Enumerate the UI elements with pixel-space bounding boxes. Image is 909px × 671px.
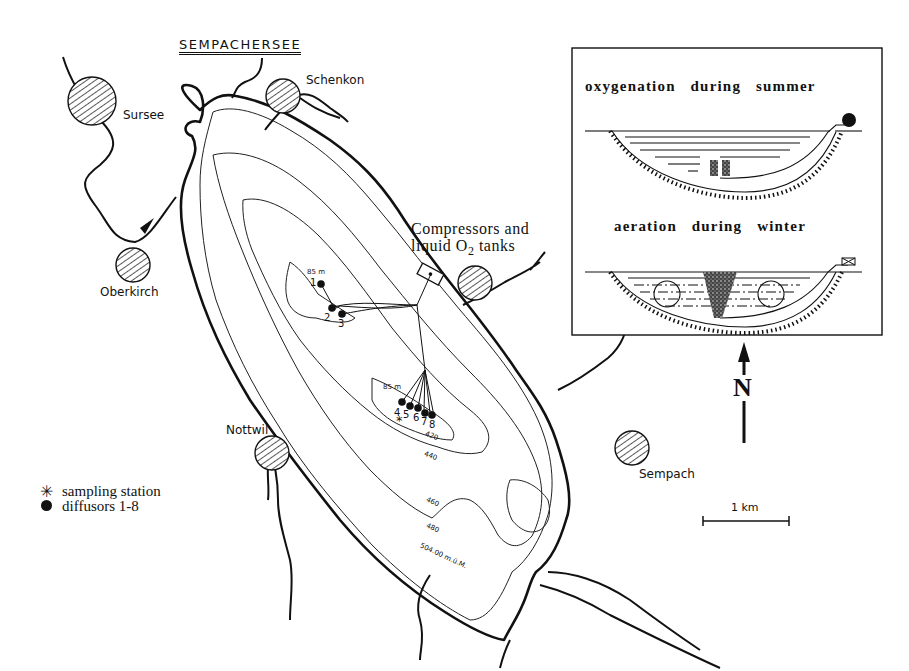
facility-label-line2: liquid O2 tanks (411, 237, 529, 260)
compressor-station-icon (417, 263, 444, 285)
o2-tank-icon (842, 113, 856, 127)
shoreline (181, 85, 569, 640)
diffusor-label-7: 7 (421, 416, 427, 427)
diffusor-4-icon (398, 398, 406, 406)
town-nottwil-icon (255, 436, 289, 470)
depth-contours (200, 109, 552, 620)
town-facility-icon (458, 266, 492, 300)
flow-arrow-icon (140, 218, 154, 234)
diffusor-label-4: 4 (394, 407, 400, 418)
inset-winter-title: aeration during winter (614, 218, 806, 235)
facility-label-line2-suffix: tanks (474, 237, 515, 254)
town-label-nottwil: Nottwil (226, 423, 268, 437)
inset-summer-title: oxygenation during summer (585, 78, 816, 95)
facility-label-line2-prefix: liquid O (411, 237, 468, 254)
pipelines (321, 276, 434, 416)
lake-map: * (0, 0, 909, 671)
scale-bar-label: 1 km (731, 501, 759, 514)
diffusor-label-2: 2 (324, 312, 330, 323)
asterisk-icon: ✳ (40, 484, 52, 499)
scale-bar (703, 516, 789, 526)
diffusor-label-8: 8 (429, 419, 435, 430)
diffusor-8-icon (428, 411, 436, 419)
town-label-sempach: Sempach (639, 467, 695, 481)
town-label-oberkirch: Oberkirch (100, 285, 159, 299)
facility-label: Compressors and liquid O2 tanks (411, 220, 529, 260)
town-label-schenkon: Schenkon (306, 73, 364, 87)
town-sempach-icon (615, 431, 649, 465)
depth-label-basin1: 85 m (307, 268, 325, 276)
diffusor-1-icon (317, 280, 325, 288)
diffusor-6-icon (414, 404, 422, 412)
town-oberkirch-icon (116, 248, 150, 282)
depth-label-basin2: 85 m (383, 383, 401, 391)
town-sursee-icon (68, 77, 116, 125)
legend-item-sampling-station: ✳ sampling station (40, 484, 161, 499)
diffusor-3-icon (338, 310, 346, 318)
compressor-icon (842, 258, 855, 265)
map-title: SEMPACHERSEE (179, 38, 301, 55)
north-label: N (733, 375, 752, 401)
legend-item-diffusors: diffusors 1-8 (40, 499, 161, 514)
filled-circle-icon (40, 499, 52, 514)
diffusor-label-6: 6 (413, 412, 419, 423)
diffusors (317, 280, 436, 419)
diffusor-2-icon (328, 304, 336, 312)
towns (68, 77, 649, 470)
diffusor-label-3: 3 (338, 318, 344, 329)
summer-plume (710, 160, 718, 176)
diffusor-label-5: 5 (403, 409, 409, 420)
legend: ✳ sampling station diffusors 1-8 (40, 484, 161, 514)
legend-label-sampling: sampling station (62, 484, 161, 499)
town-schenkon-icon (266, 79, 300, 113)
diffusor-label-1: 1 (310, 277, 316, 288)
facility-label-line1: Compressors and (411, 220, 529, 237)
legend-label-diffusors: diffusors 1-8 (62, 499, 139, 514)
town-label-sursee: Sursee (123, 108, 164, 122)
